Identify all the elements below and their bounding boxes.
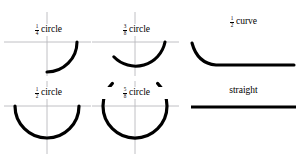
label-word: circle [129, 25, 150, 35]
fraction-five-eighths: 5 8 [123, 87, 127, 99]
fraction-three-eighths: 3 8 [123, 24, 127, 36]
three-eighths-circle-graphic [88, 10, 183, 78]
label-word: circle [129, 88, 150, 98]
label-word: straight [229, 86, 258, 96]
needle-arc [114, 42, 165, 66]
label-word: circle [41, 88, 62, 98]
needle-curvature-chart: 1 4 circle 3 8 circle [0, 0, 299, 160]
cell-three-eighths-circle: 3 8 circle [88, 10, 183, 78]
label-word: curve [236, 17, 257, 27]
fraction-one-quarter: 1 4 [35, 24, 39, 36]
label-three-eighths-circle: 3 8 circle [88, 24, 185, 36]
cell-half-circle: 1 2 circle [0, 80, 95, 158]
cell-straight: straight [186, 80, 299, 158]
label-five-eighths-circle: 5 8 circle [88, 87, 185, 99]
label-half-curve: 1 2 curve [186, 16, 299, 28]
cell-half-curve: 1 2 curve [186, 10, 299, 78]
fraction-one-half: 1 2 [35, 87, 39, 99]
quarter-circle-graphic [0, 10, 95, 78]
label-straight: straight [186, 86, 299, 96]
needle-arc [47, 42, 77, 72]
cell-five-eighths-circle: 5 8 circle [88, 80, 183, 158]
cell-quarter-circle: 1 4 circle [0, 10, 95, 78]
label-half-circle: 1 2 circle [0, 87, 97, 99]
needle-j-curve [192, 43, 294, 65]
label-word: circle [41, 25, 62, 35]
fraction-one-half: 1 2 [230, 16, 234, 28]
label-quarter-circle: 1 4 circle [0, 24, 97, 36]
